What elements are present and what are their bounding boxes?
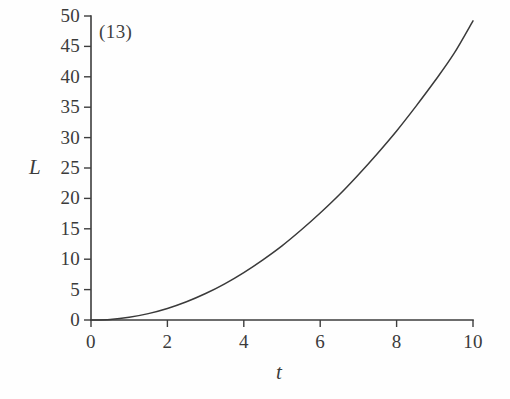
y-axis-tick-label: 30 [36, 128, 80, 147]
x-axis-tick-label: 0 [69, 332, 113, 351]
y-axis-tick-label: 35 [36, 97, 80, 116]
y-axis-tick-label: 50 [36, 6, 80, 25]
x-axis-tick-label: 4 [222, 332, 266, 351]
x-axis-tick-label: 8 [375, 332, 419, 351]
y-axis-tick-label: 45 [36, 36, 80, 55]
x-axis-label: t [276, 362, 282, 383]
y-axis-tick-label: 40 [36, 67, 80, 86]
figure-canvas: 50454035302520151050 0246810 L t (13) [0, 0, 510, 399]
x-axis-tick-label: 10 [451, 332, 495, 351]
y-axis-tick-label: 0 [36, 310, 80, 329]
y-axis-tick-label: 15 [36, 219, 80, 238]
x-axis-tick-label: 6 [298, 332, 342, 351]
y-axis-tick-label: 25 [36, 158, 80, 177]
y-axis-tick-label: 5 [36, 280, 80, 299]
y-axis-tick-label: 20 [36, 188, 80, 207]
data-curve [91, 21, 473, 320]
y-axis-tick-label: 10 [36, 249, 80, 268]
x-axis-ticks [91, 320, 473, 327]
y-axis-ticks [84, 16, 91, 320]
panel-number-label: (13) [99, 22, 132, 41]
axis-lines [91, 16, 473, 320]
x-axis-tick-label: 2 [145, 332, 189, 351]
y-axis-label: L [29, 157, 41, 178]
data-series-group [91, 21, 473, 320]
